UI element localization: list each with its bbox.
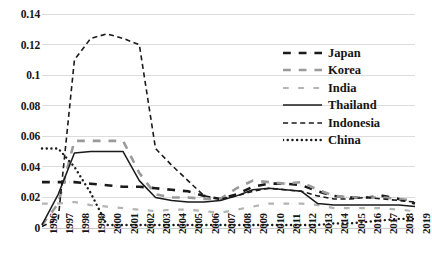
x-axis-tick-label: 2000 (111, 213, 123, 234)
x-axis-tick-label: 2015 (355, 213, 367, 234)
x-axis-tick-label: 2018 (403, 213, 415, 234)
legend-line-icon (283, 64, 323, 76)
x-axis-tick-label: 2006 (209, 213, 221, 234)
x-axis-tick-label: 2003 (160, 213, 172, 234)
legend-item-label: Japan (328, 47, 361, 60)
legend-item-china: China (283, 132, 418, 150)
legend-item-label: India (328, 82, 357, 95)
legend-item-label: China (328, 134, 361, 147)
legend-item-thailand: Thailand (283, 97, 418, 115)
legend-line-icon (283, 47, 323, 59)
legend-line-icon (283, 117, 323, 129)
x-axis-tick-label: 1998 (79, 213, 91, 234)
legend-item-indonesia: Indonesia (283, 114, 418, 132)
x-axis-tick-label: 2013 (322, 213, 334, 234)
legend-line-icon (283, 82, 323, 94)
legend-line-icon (283, 99, 323, 111)
x-axis-tick-label: 2007 (225, 213, 237, 234)
x-axis-tick-label: 2002 (144, 213, 156, 234)
legend-item-label: Thailand (328, 99, 377, 112)
x-axis-tick-label: 1996 (47, 213, 59, 234)
x-axis-tick-label: 2010 (274, 213, 286, 234)
x-axis-tick-label: 2011 (290, 214, 302, 234)
x-axis-tick-label: 2004 (176, 213, 188, 234)
x-axis-tick-label: 2009 (257, 213, 269, 234)
legend-line-icon (283, 134, 323, 146)
x-axis-tick-label: 2001 (128, 213, 140, 234)
x-axis-tick-label: 2005 (192, 213, 204, 234)
legend-item-india: India (283, 79, 418, 97)
legend-item-japan: Japan (283, 44, 418, 62)
legend-item-label: Korea (328, 64, 361, 77)
x-axis-tick-label: 2017 (387, 213, 399, 234)
chart-legend: JapanKoreaIndiaThailandIndonesiaChina (283, 44, 418, 149)
x-axis-tick-label: 2016 (371, 213, 383, 234)
x-axis-tick-label: 2008 (241, 213, 253, 234)
legend-item-label: Indonesia (328, 117, 380, 130)
x-axis-tick-label: 2014 (338, 213, 350, 234)
x-axis-tick-label: 2019 (420, 213, 432, 234)
legend-item-korea: Korea (283, 62, 418, 80)
x-axis-tick-label: 1997 (63, 213, 75, 234)
x-axis-tick-label: 2012 (306, 213, 318, 234)
x-axis-tick-label: 1999 (95, 213, 107, 234)
